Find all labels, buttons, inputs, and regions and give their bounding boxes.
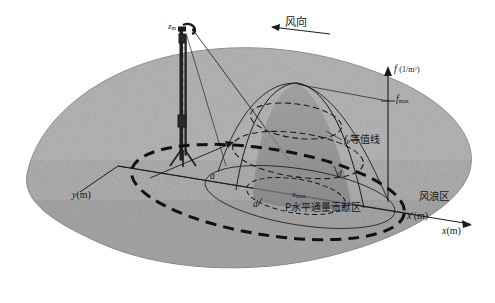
figure-canvas: zm 风向 f (1/m2) fmax fP等值线 xmax P水平通量贡献区 … — [0, 0, 495, 303]
fetch-area-label: 风浪区 — [419, 191, 449, 202]
terrain-patch — [0, 0, 495, 303]
f-axis-label: f (1/m2) — [394, 64, 420, 74]
tower-height-label: zm — [168, 22, 176, 32]
x-axis-label: x(m) — [442, 226, 461, 236]
contour-label: fP等值线 — [344, 135, 380, 146]
x-prime-axis-label: x′(m) — [407, 211, 428, 221]
wind-direction-label: 风向 — [285, 17, 307, 28]
diagram-svg — [0, 0, 495, 303]
y-axis-label: y(m) — [72, 190, 91, 200]
f-max-label: fmax — [396, 95, 409, 105]
distance-a-label: a — [210, 172, 215, 182]
footprint-area-label: P水平通量贡献区 — [285, 203, 361, 213]
distance-d-right-label: d — [337, 170, 342, 180]
distance-d-left-label: d — [253, 200, 258, 210]
x-max-label: xmax — [292, 190, 306, 200]
